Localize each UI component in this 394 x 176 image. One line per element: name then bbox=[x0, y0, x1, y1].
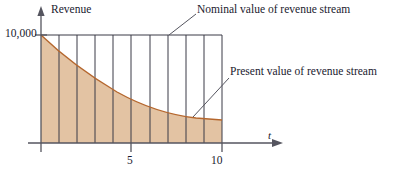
x-axis-label: t bbox=[268, 130, 271, 141]
nominal-value-annotation: Nominal value of revenue stream bbox=[197, 4, 350, 16]
nominal-leader-line bbox=[169, 14, 196, 35]
present-leader-line bbox=[193, 78, 229, 117]
present-value-annotation: Present value of revenue stream bbox=[230, 66, 377, 78]
y-axis-tick-label: 10,000 bbox=[5, 28, 37, 40]
revenue-stream-figure bbox=[0, 0, 394, 176]
y-axis-label: Revenue bbox=[51, 4, 91, 16]
x-axis-tick-label-5: 5 bbox=[127, 155, 133, 167]
x-axis-tick-label-10: 10 bbox=[211, 155, 223, 167]
